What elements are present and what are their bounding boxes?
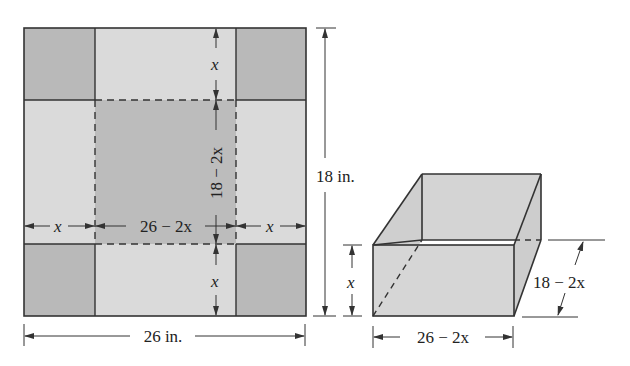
corner-square-tr bbox=[236, 28, 306, 100]
folded-box: x 26 − 2x 18 − 2x bbox=[343, 174, 605, 348]
label-base-height: 18 − 2x bbox=[207, 146, 226, 199]
label-box-depth: 18 − 2x bbox=[533, 273, 586, 292]
box-front-face bbox=[373, 245, 514, 316]
label-bottom-x: x bbox=[210, 272, 219, 291]
corner-square-tl bbox=[24, 28, 95, 100]
corner-square-br bbox=[236, 244, 306, 316]
label-box-length: 26 − 2x bbox=[417, 328, 470, 347]
label-left-x: x bbox=[53, 217, 62, 236]
corner-square-bl bbox=[24, 244, 95, 316]
flat-sheet: x 18 − 2x x x 26 − 2x x bbox=[24, 28, 355, 346]
label-right-x: x bbox=[265, 217, 274, 236]
label-box-height: x bbox=[346, 273, 355, 292]
label-top-x: x bbox=[210, 55, 219, 74]
label-sheet-height: 18 in. bbox=[316, 167, 355, 186]
box-diagram: x 18 − 2x x x 26 − 2x x bbox=[0, 0, 630, 366]
label-base-width: 26 − 2x bbox=[140, 217, 193, 236]
label-sheet-width: 26 in. bbox=[144, 327, 183, 346]
